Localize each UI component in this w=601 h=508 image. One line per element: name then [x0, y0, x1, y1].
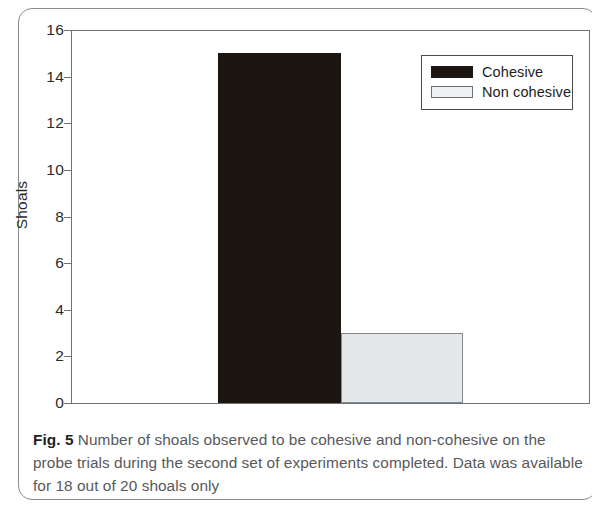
frame-edge-mask-right	[592, 0, 601, 508]
figure-chart: 0246810121416 Shoals Cohesive Non cohesi…	[0, 0, 601, 420]
bar-cohesive	[218, 53, 341, 403]
legend-swatch-cohesive	[431, 66, 473, 78]
y-tick-mark	[64, 123, 71, 124]
y-axis-line	[71, 30, 72, 404]
y-tick-label: 16	[18, 21, 64, 39]
plot-top-border	[71, 30, 590, 31]
y-axis-title: Shoals	[13, 155, 31, 255]
y-tick-mark	[64, 356, 71, 357]
bar-non-cohesive	[341, 333, 463, 403]
y-tick-label: 14	[18, 68, 64, 86]
y-tick-label: 6	[18, 254, 64, 272]
y-tick-label: 12	[18, 114, 64, 132]
x-axis-line	[71, 403, 590, 404]
y-tick-label: 4	[18, 301, 64, 319]
figure-caption-text: Number of shoals observed to be cohesive…	[33, 431, 583, 494]
y-tick-mark	[64, 217, 71, 218]
y-tick-mark	[64, 30, 71, 31]
y-tick-label: 0	[18, 394, 64, 412]
y-tick-mark	[64, 403, 71, 404]
y-tick-mark	[64, 263, 71, 264]
legend-item-non-cohesive: Non cohesive	[431, 82, 572, 102]
legend-swatch-non-cohesive	[431, 86, 473, 98]
plot-right-border	[589, 30, 590, 404]
legend-item-cohesive: Cohesive	[431, 62, 572, 82]
y-tick-mark	[64, 170, 71, 171]
y-tick-label: 2	[18, 347, 64, 365]
y-tick-mark	[64, 310, 71, 311]
legend-label-cohesive: Cohesive	[482, 64, 543, 80]
figure-caption: Fig. 5 Number of shoals observed to be c…	[33, 428, 585, 497]
frame-edge-mask-bottom	[0, 500, 601, 508]
legend-label-non-cohesive: Non cohesive	[482, 84, 571, 100]
chart-legend: Cohesive Non cohesive	[421, 55, 573, 110]
figure-number: Fig. 5	[33, 431, 74, 448]
y-tick-mark	[64, 77, 71, 78]
